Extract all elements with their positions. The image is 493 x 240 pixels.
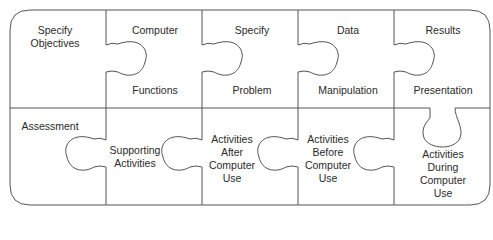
label-line: Computer <box>305 159 351 172</box>
piece-supporting-activities: Supporting Activities <box>110 144 161 170</box>
label-line: Use <box>305 172 351 185</box>
label-line: Before <box>305 146 351 159</box>
label-line: Specify <box>30 24 79 37</box>
piece-activities-after: Activities After Computer Use <box>209 133 255 185</box>
piece-data-manipulation-top: Data <box>337 24 359 37</box>
piece-specify-problem-bottom: Problem <box>232 84 271 97</box>
label-line: Supporting <box>110 144 161 157</box>
label-line: Activities <box>110 157 161 170</box>
piece-results-presentation-top: Results <box>425 24 460 37</box>
label-line: Activities <box>420 148 466 161</box>
piece-activities-before: Activities Before Computer Use <box>305 133 351 185</box>
label-line: Computer <box>420 174 466 187</box>
piece-activities-during: Activities During Computer Use <box>420 148 466 200</box>
piece-computer-functions-top: Computer <box>132 24 178 37</box>
label-line: Activities <box>209 133 255 146</box>
label-line: Assessment <box>21 120 78 133</box>
piece-computer-functions-bottom: Functions <box>132 84 178 97</box>
label-line: Computer <box>209 159 255 172</box>
piece-data-manipulation-bottom: Manipulation <box>318 84 378 97</box>
label-line: During <box>420 161 466 174</box>
label-line: Use <box>420 187 466 200</box>
piece-assessment: Assessment <box>21 120 78 133</box>
piece-specify-objectives: Specify Objectives <box>30 24 79 50</box>
label-line: After <box>209 146 255 159</box>
label-line: Activities <box>305 133 351 146</box>
label-line: Objectives <box>30 37 79 50</box>
piece-specify-problem-top: Specify <box>235 24 269 37</box>
label-line: Use <box>209 172 255 185</box>
piece-results-presentation-bottom: Presentation <box>414 84 473 97</box>
